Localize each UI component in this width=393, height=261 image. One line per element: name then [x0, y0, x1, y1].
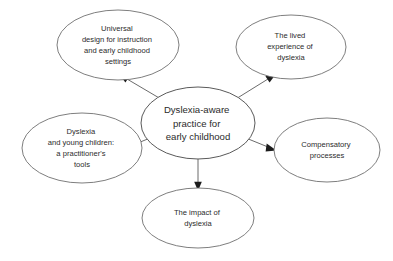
node-line: Compensatory — [301, 140, 351, 149]
node-line: design for instruction — [82, 35, 152, 44]
node-practitioners-tools[interactable]: Dyslexia and young children: a practitio… — [22, 113, 142, 183]
concept-map-canvas: Universal design for instruction and ear… — [0, 0, 393, 261]
node-lived-experience[interactable]: The lived experience of dyslexia — [236, 15, 346, 79]
node-label-central: Dyslexia-aware practice for early childh… — [164, 104, 232, 142]
connector-central-to-impact-of-dyslexia — [194, 158, 202, 191]
node-line: early childhood — [166, 131, 231, 142]
node-central-dyslexia-aware-practice[interactable]: Dyslexia-aware practice for early childh… — [141, 87, 255, 159]
node-line: Dyslexia-aware — [164, 104, 230, 115]
node-line: The impact of — [174, 208, 221, 217]
node-line: dyslexia — [184, 219, 212, 228]
node-compensatory-processes[interactable]: Compensatory processes — [274, 118, 380, 182]
node-line: and early childhood — [84, 46, 150, 55]
node-line: practice for — [173, 117, 221, 128]
node-impact-of-dyslexia[interactable]: The impact of dyslexia — [142, 188, 254, 248]
node-line: experience of — [267, 42, 313, 51]
node-line: tools — [74, 160, 90, 169]
node-line: Universal — [101, 24, 133, 33]
node-line: settings — [105, 57, 131, 66]
node-line: dyslexia — [277, 53, 305, 62]
node-universal-design[interactable]: Universal design for instruction and ear… — [57, 10, 179, 80]
node-line: The lived — [275, 31, 306, 40]
node-line: and young children: — [48, 138, 114, 147]
node-line: processes — [310, 151, 345, 160]
node-line: Dyslexia — [67, 127, 96, 136]
concept-map-diagram: Universal design for instruction and ear… — [0, 0, 393, 261]
node-line: a practitioner's — [56, 149, 105, 158]
